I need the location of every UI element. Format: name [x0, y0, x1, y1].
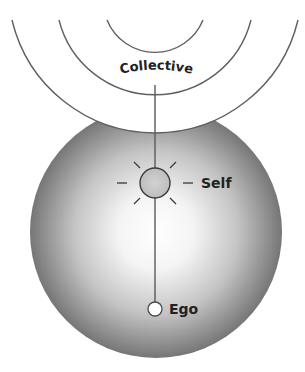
- ego-label: Ego: [169, 301, 199, 317]
- diagram-canvas: Collective Self Ego: [0, 0, 305, 372]
- psyche-diagram: Collective Self Ego: [0, 0, 305, 372]
- psyche-sphere: [30, 106, 282, 358]
- self-label: Self: [201, 175, 232, 191]
- top-margin: [0, 0, 305, 20]
- self-node: [140, 168, 170, 198]
- ego-node: [148, 302, 162, 316]
